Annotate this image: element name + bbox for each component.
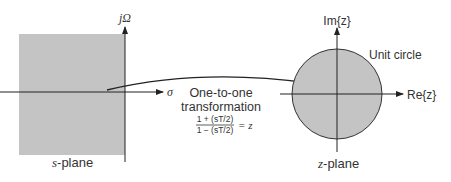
transformation-line1: One-to-one <box>189 86 252 100</box>
re-z-axis-label: Re{z} <box>407 88 436 102</box>
s-plane-label: s-plane <box>52 155 93 170</box>
jomega-axis-label: jΩ <box>117 11 131 25</box>
sigma-axis-label: σ <box>167 85 174 99</box>
formula-numerator: 1 + (sT/2) <box>197 114 234 124</box>
s-plane-left-half-region <box>19 34 125 155</box>
transformation-label: One-to-one transformation 1 + (sT/2) 1 −… <box>181 86 261 135</box>
im-z-axis-label: Im{z} <box>323 14 350 28</box>
s-plane: jΩ σ s-plane <box>0 11 174 170</box>
transformation-line2: transformation <box>181 100 261 114</box>
unit-circle-label: Unit circle <box>369 48 422 62</box>
formula-equals-z: = z <box>238 119 253 131</box>
z-plane-label: z-plane <box>317 156 359 171</box>
diagram-canvas: jΩ σ s-plane One-to-one transformation 1… <box>0 0 451 182</box>
formula-denominator: 1 − (sT/2) <box>197 125 234 135</box>
z-plane: Im{z} Re{z} Unit circle z-plane <box>280 14 436 171</box>
